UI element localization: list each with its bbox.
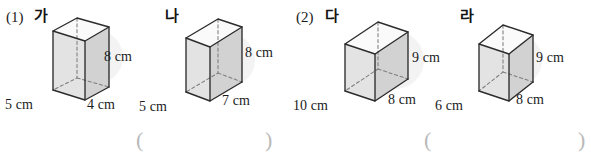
problem-number-1: (1): [6, 10, 24, 25]
dimension-width-da: 10 cm: [293, 99, 328, 113]
problem-number-2: (2): [296, 10, 314, 25]
dimension-height-na: 8 cm: [245, 46, 273, 60]
dimension-height-ra: 9 cm: [536, 51, 564, 65]
dimension-depth-na: 7 cm: [222, 94, 250, 108]
dimension-depth-da: 8 cm: [388, 93, 416, 107]
dimension-depth-ga: 4 cm: [87, 98, 115, 112]
cuboid-ra: [479, 25, 542, 101]
figure-label-da: 다: [325, 9, 339, 24]
figure-label-na: 나: [165, 9, 179, 24]
dimension-depth-ra: 8 cm: [516, 93, 544, 107]
dimension-height-da: 9 cm: [412, 51, 440, 65]
worksheet-figure-panel: .edge { stroke: #2b2b2b; stroke-width: 1…: [0, 0, 591, 160]
answer-paren-open-1[interactable]: (: [136, 129, 143, 151]
cuboid-na: [186, 19, 255, 101]
dimension-width-na: 5 cm: [139, 100, 167, 114]
dimension-height-ga: 8 cm: [104, 50, 132, 64]
answer-paren-close-1[interactable]: ): [265, 129, 272, 151]
answer-paren-open-2[interactable]: (: [424, 129, 431, 151]
figure-label-ra: 라: [460, 9, 474, 24]
figure-label-ga: 가: [34, 9, 48, 24]
dimension-width-ra: 6 cm: [435, 99, 463, 113]
dimension-width-ga: 5 cm: [5, 98, 33, 112]
answer-paren-close-2[interactable]: ): [578, 129, 585, 151]
